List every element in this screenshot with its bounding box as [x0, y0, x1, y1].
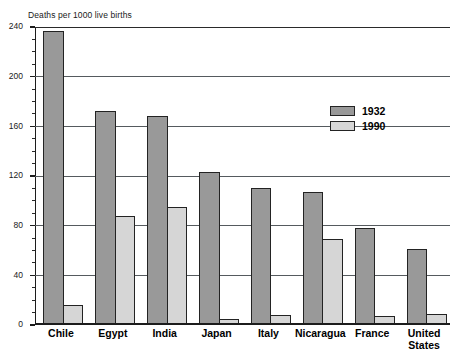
y-minor-tick-60: [32, 250, 35, 251]
legend-swatch-1990: [330, 121, 355, 131]
y-minor-tick-230: [32, 39, 35, 40]
y-minor-tick-180: [32, 101, 35, 102]
x-axis-label-france: France: [346, 328, 398, 340]
bar-1932: [251, 188, 272, 325]
plot-inner: 24020016012080400: [35, 27, 450, 325]
x-axis-label-italy: Italy: [243, 328, 295, 340]
y-tick-160: 160: [30, 126, 35, 127]
x-axis-label-egypt: Egypt: [87, 328, 139, 340]
y-minor-tick-20: [32, 300, 35, 301]
bar-group: [407, 27, 448, 325]
y-minor-tick-140: [32, 151, 35, 152]
chart-axis-title: Deaths per 1000 live births: [28, 10, 132, 20]
bar-1932: [407, 249, 428, 325]
legend-item-1990: 1990: [330, 120, 385, 132]
bar-1932: [355, 228, 376, 325]
y-minor-tick-50: [32, 262, 35, 263]
y-tick-label-160: 160: [9, 121, 23, 131]
y-tick-label-120: 120: [9, 170, 23, 180]
y-tick-120: 120: [30, 175, 35, 176]
y-tick-label-0: 0: [18, 319, 23, 329]
bars-layer: [36, 27, 450, 325]
legend-swatch-1932: [330, 106, 355, 116]
y-tick-200: 200: [30, 76, 35, 77]
x-axis-label-japan: Japan: [191, 328, 243, 340]
plot-area: 24020016012080400: [35, 27, 450, 325]
bar-1932: [147, 116, 168, 325]
y-tick-240: 240: [30, 26, 35, 27]
y-tick-label-40: 40: [14, 270, 23, 280]
x-axis-line: [35, 323, 450, 325]
y-minor-tick-90: [32, 213, 35, 214]
y-minor-tick-220: [32, 51, 35, 52]
y-minor-tick-110: [32, 188, 35, 189]
bar-1990: [63, 305, 84, 325]
bar-1990: [322, 239, 343, 325]
legend-item-1932: 1932: [330, 105, 385, 117]
y-minor-tick-170: [32, 113, 35, 114]
bar-group: [147, 27, 188, 325]
bar-1932: [303, 192, 324, 325]
chart-legend: 1932 1990: [330, 105, 385, 135]
y-tick-label-80: 80: [14, 220, 23, 230]
x-axis-label-india: India: [139, 328, 191, 340]
x-axis-label-chile: Chile: [35, 328, 87, 340]
legend-label-1990: 1990: [362, 120, 385, 132]
x-axis-labels: ChileEgyptIndiaJapanItalyNicaraguaFrance…: [35, 328, 450, 358]
y-minor-tick-10: [32, 312, 35, 313]
y-tick-label-200: 200: [9, 71, 23, 81]
y-tick-80: 80: [30, 225, 35, 226]
y-minor-tick-130: [32, 163, 35, 164]
bar-group: [251, 27, 292, 325]
y-minor-tick-100: [32, 200, 35, 201]
bar-chart: Deaths per 1000 live births 240200160120…: [0, 0, 465, 359]
bar-group: [303, 27, 344, 325]
bar-group: [95, 27, 136, 325]
legend-label-1932: 1932: [362, 105, 385, 117]
x-axis-label-united-states: UnitedStates: [398, 328, 450, 351]
bar-1990: [167, 207, 188, 325]
y-tick-40: 40: [30, 275, 35, 276]
bar-1932: [43, 31, 64, 325]
x-axis-label-nicaragua: Nicaragua: [294, 328, 346, 340]
bar-group: [43, 27, 84, 325]
y-minor-tick-150: [32, 138, 35, 139]
y-tick-label-240: 240: [9, 21, 23, 31]
bar-1932: [95, 111, 116, 325]
y-minor-tick-190: [32, 89, 35, 90]
bar-group: [355, 27, 396, 325]
bar-group: [199, 27, 240, 325]
y-minor-tick-70: [32, 238, 35, 239]
bar-1990: [115, 216, 136, 325]
y-minor-tick-210: [32, 64, 35, 65]
y-minor-tick-30: [32, 287, 35, 288]
bar-1932: [199, 172, 220, 325]
